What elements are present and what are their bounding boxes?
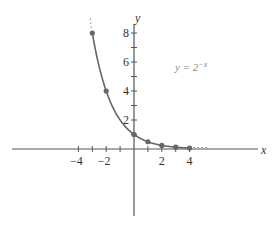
data-point [104,88,109,93]
curve-continuation-top [90,18,91,28]
data-point [90,30,95,35]
x-tick-label: 2 [159,154,165,168]
y-tick-label: 8 [123,26,129,40]
exponential-decay-chart: −4−2242468xyy = 2−x [0,0,272,227]
y-tick-label: 6 [123,55,129,69]
x-axis-label: x [260,143,267,157]
x-tick-label: −4 [70,154,83,168]
x-tick-label: 4 [187,154,193,168]
equation-label: y = 2−x [174,60,208,73]
data-point [173,145,178,150]
data-point [145,139,150,144]
data-point [159,143,164,148]
data-point [131,132,136,137]
data-point [187,145,192,150]
x-tick-label: −2 [98,154,111,168]
y-axis-label: y [134,11,141,25]
y-tick-label: 4 [123,84,129,98]
